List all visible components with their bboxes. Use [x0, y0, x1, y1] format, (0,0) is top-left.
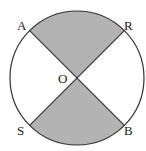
- circle-diagram: A R O S B: [0, 0, 146, 151]
- label-A: A: [17, 18, 27, 33]
- label-O: O: [58, 71, 67, 86]
- label-B: B: [124, 123, 133, 138]
- label-R: R: [124, 18, 133, 33]
- label-S: S: [17, 123, 24, 138]
